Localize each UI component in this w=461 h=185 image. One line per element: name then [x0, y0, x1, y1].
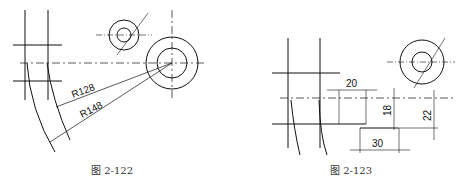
figure-2-123-sketch [272, 38, 455, 155]
dim-30: 30 [372, 138, 384, 149]
drawings: R128 R148 20 18 22 30 [0, 0, 461, 185]
dim-20: 20 [346, 78, 358, 89]
dim-18: 18 [382, 104, 393, 116]
figure-canvas: R128 R148 20 18 22 30 图 2-122 图 2-123 [0, 0, 461, 185]
caption-2-122: 图 2-122 [91, 162, 133, 177]
caption-2-123: 图 2-123 [330, 162, 372, 177]
dim-r128: R128 [70, 81, 97, 100]
dim-22: 22 [422, 109, 433, 121]
figure-2-122-sketch [13, 10, 205, 152]
dim-r148: R148 [78, 99, 105, 120]
